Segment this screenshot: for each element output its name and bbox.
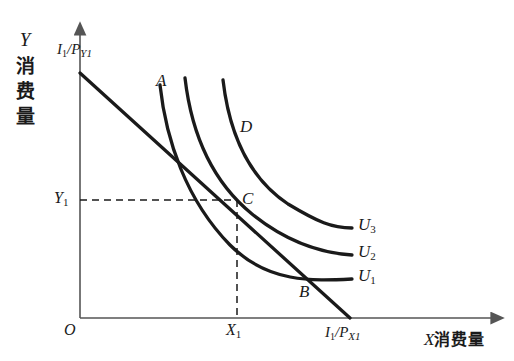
y-axis-title-var: Y <box>8 28 42 52</box>
y-intercept-sub1: 1 <box>62 48 67 59</box>
y-axis-title-char-2: 费 <box>8 79 42 104</box>
y1-tick-var: Y <box>54 189 63 206</box>
x-axis-title-chars: 消费量 <box>434 330 485 349</box>
curve-label-u1-sub: 1 <box>370 274 376 286</box>
y1-tick-sub: 1 <box>63 196 69 208</box>
x-axis-title: X消费量 <box>424 326 485 350</box>
curve-label-u2-sub: 2 <box>370 250 376 262</box>
curve-label-u1: U1 <box>358 267 376 284</box>
x-axis-title-var: X <box>424 330 434 349</box>
y1-tick-label: Y1 <box>54 190 68 206</box>
curve-label-u2-var: U <box>358 242 370 261</box>
x1-tick-label: X1 <box>226 322 241 338</box>
x-intercept-slash: /P <box>335 324 348 340</box>
indifference-curve-figure: Y 消 费 量 I1/PY1 I1/PX1 X消费量 O Y1 X1 A B C… <box>0 0 514 361</box>
y-axis-title: Y 消 费 量 <box>8 28 42 129</box>
point-label-a: A <box>156 72 166 89</box>
x-intercept-label: I1/PX1 <box>325 325 361 340</box>
y-intercept-sub2: Y1 <box>80 47 92 59</box>
x-intercept-sub2: X1 <box>348 330 360 342</box>
y-axis-title-char-1: 消 <box>8 54 42 79</box>
y-intercept-label: I1/PY1 <box>57 42 92 57</box>
curve-label-u3: U3 <box>358 216 376 233</box>
y-axis-title-char-3: 量 <box>8 104 42 129</box>
budget-line <box>80 73 350 318</box>
x1-tick-sub: 1 <box>236 328 242 340</box>
curve-label-u3-var: U <box>358 215 370 234</box>
point-label-d: D <box>240 118 252 135</box>
indifference-curve-u2 <box>185 78 352 255</box>
curve-label-u1-var: U <box>358 266 370 285</box>
curve-label-u2: U2 <box>358 243 376 260</box>
x1-tick-var: X <box>226 321 236 338</box>
curve-label-u3-sub: 3 <box>370 223 376 235</box>
origin-label: O <box>64 322 76 338</box>
y-intercept-slash: /P <box>67 41 80 57</box>
x-intercept-sub1: 1 <box>330 331 335 342</box>
point-label-c: C <box>242 190 253 207</box>
point-label-b: B <box>299 283 309 300</box>
